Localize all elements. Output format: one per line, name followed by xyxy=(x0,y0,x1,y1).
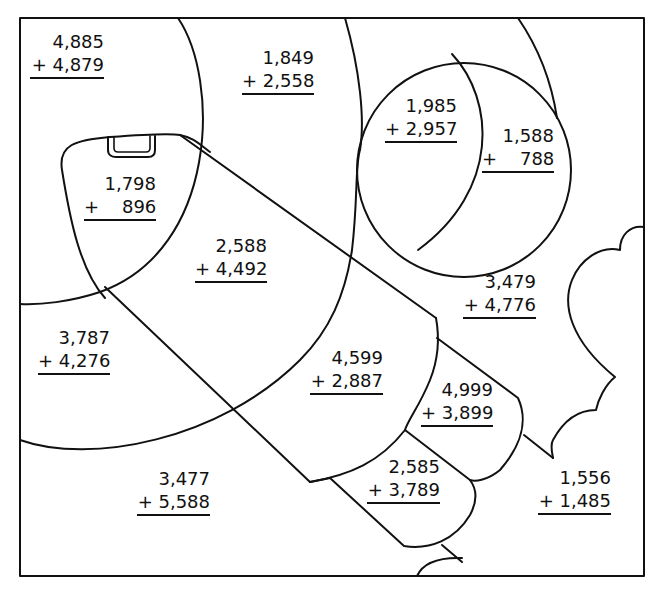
top-right-arc xyxy=(518,18,557,118)
addend-top: 1,588 xyxy=(482,124,554,147)
problem-p5: 1,798 + 896 xyxy=(84,172,156,221)
problem-p2: 1,849 + 2,558 xyxy=(242,46,314,95)
problem-p7: 3,479 + 4,776 xyxy=(463,270,536,319)
addend-bottom: + 1,485 xyxy=(538,489,611,515)
addend-bottom: + 2,957 xyxy=(385,117,457,143)
addend-bottom: + 3,789 xyxy=(367,478,440,504)
addend-bottom: + 2,558 xyxy=(242,69,314,95)
problem-p6: 2,588 + 4,492 xyxy=(195,234,267,283)
cloud-right xyxy=(551,227,644,458)
problem-p11: 2,585 + 3,789 xyxy=(367,455,440,504)
rocket-body-bottom-edge xyxy=(105,287,330,482)
addend-bottom: + 4,879 xyxy=(30,53,104,79)
addend-top: 4,885 xyxy=(30,30,104,53)
addend-bottom: + 896 xyxy=(84,195,156,221)
exhaust-line xyxy=(524,435,553,458)
sphere-crescent-line xyxy=(418,54,483,250)
problem-p9: 4,599 + 2,887 xyxy=(310,346,383,395)
addend-top: 1,849 xyxy=(242,46,314,69)
addend-top: 1,556 xyxy=(538,466,611,489)
problem-p1: 4,885 + 4,879 xyxy=(30,30,104,79)
addend-bottom: + 5,588 xyxy=(137,490,210,516)
addend-top: 4,599 xyxy=(310,346,383,369)
addend-top: 3,479 xyxy=(463,270,536,293)
addend-bottom: + 788 xyxy=(482,147,554,173)
addend-top: 4,999 xyxy=(421,378,493,401)
problem-p10: 4,999 + 3,899 xyxy=(421,378,493,427)
addend-bottom: + 4,492 xyxy=(195,257,267,283)
rocket-window xyxy=(108,136,155,157)
addend-bottom: + 4,776 xyxy=(463,293,536,319)
addend-top: 1,985 xyxy=(385,94,457,117)
addend-top: 3,787 xyxy=(38,326,110,349)
problem-p8: 3,787 + 4,276 xyxy=(38,326,110,375)
addend-bottom: + 2,887 xyxy=(310,369,383,395)
problem-p12: 3,477 + 5,588 xyxy=(137,467,210,516)
rocket-body-top-edge xyxy=(180,135,436,318)
problem-p3: 1,985 + 2,957 xyxy=(385,94,457,143)
problem-p4: 1,588 + 788 xyxy=(482,124,554,173)
cloud-bottom xyxy=(417,558,462,576)
addend-bottom: + 4,276 xyxy=(38,349,110,375)
addend-top: 3,477 xyxy=(137,467,210,490)
addend-top: 2,588 xyxy=(195,234,267,257)
addend-top: 1,798 xyxy=(84,172,156,195)
problem-p13: 1,556 + 1,485 xyxy=(538,466,611,515)
rocket-window-inner xyxy=(114,136,150,152)
addend-top: 2,585 xyxy=(367,455,440,478)
addend-bottom: + 3,899 xyxy=(421,401,493,427)
